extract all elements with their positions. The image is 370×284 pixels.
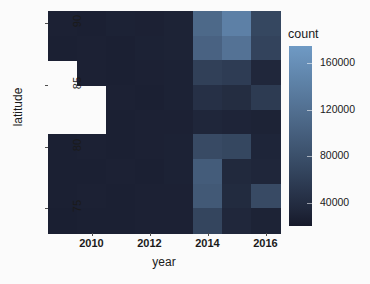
y-tick-mark <box>45 85 48 86</box>
x-tick-mark <box>92 233 93 236</box>
heatmap-cell <box>106 60 136 85</box>
heatmap-cell <box>106 85 136 110</box>
heatmap-figure: 90858075 2010201220142016 year latitude … <box>0 0 370 284</box>
x-tick-label: 2012 <box>127 237 173 249</box>
heatmap-cell <box>77 36 107 61</box>
y-tick-label: 85 <box>43 77 83 89</box>
heatmap-cell <box>222 159 252 184</box>
y-tick-mark <box>45 147 48 148</box>
legend-tick-mark <box>307 110 312 111</box>
heatmap-cell <box>135 208 165 233</box>
heatmap-cell <box>48 36 78 61</box>
heatmap-cell <box>164 208 194 233</box>
heatmap-cell <box>193 11 223 36</box>
heatmap-cell <box>193 184 223 209</box>
heatmap-cell <box>193 85 223 110</box>
heatmap-cell <box>164 184 194 209</box>
x-axis-label: year <box>48 255 280 269</box>
x-tick-mark <box>266 233 267 236</box>
x-tick-label: 2016 <box>243 237 289 249</box>
heatmap-cell <box>106 110 136 135</box>
heatmap-cell <box>135 134 165 159</box>
heatmap-cell <box>222 36 252 61</box>
x-tick-label: 2010 <box>69 237 115 249</box>
heatmap-cell <box>106 208 136 233</box>
legend-tick-mark <box>307 203 312 204</box>
y-tick-label: 90 <box>43 15 83 27</box>
heatmap-cell <box>251 60 281 85</box>
heatmap-cell <box>222 134 252 159</box>
legend-tick-label: 160000 <box>320 56 355 68</box>
legend-tick-label: 120000 <box>320 103 355 115</box>
heatmap-cell <box>164 36 194 61</box>
heatmap-cell <box>222 208 252 233</box>
y-tick-mark <box>45 208 48 209</box>
heatmap-cell <box>251 11 281 36</box>
x-tick-mark <box>208 233 209 236</box>
heatmap-cell <box>251 110 281 135</box>
heatmap-cell <box>106 11 136 36</box>
heatmap-cell <box>193 36 223 61</box>
heatmap-cell <box>135 11 165 36</box>
heatmap-cell <box>251 184 281 209</box>
legend-tick-label: 80000 <box>320 149 349 161</box>
y-axis-label: latitude <box>11 67 25 147</box>
heatmap-cell <box>193 110 223 135</box>
legend-tick-mark <box>307 63 312 64</box>
heatmap-cell <box>222 184 252 209</box>
heatmap-cell <box>106 36 136 61</box>
heatmap-cell <box>193 134 223 159</box>
legend-title: count <box>288 27 319 41</box>
heatmap-cell <box>164 134 194 159</box>
heatmap-cell <box>251 134 281 159</box>
y-tick-mark <box>45 23 48 24</box>
legend-tick-mark <box>307 156 312 157</box>
heatmap-cell <box>222 60 252 85</box>
heatmap-cell <box>135 36 165 61</box>
heatmap-cell <box>106 184 136 209</box>
heatmap-cell <box>193 159 223 184</box>
heatmap-cell <box>106 134 136 159</box>
heatmap-cell <box>164 60 194 85</box>
x-tick-label: 2014 <box>185 237 231 249</box>
y-tick-label: 80 <box>43 139 83 151</box>
heatmap-cell <box>251 159 281 184</box>
heatmap-cell <box>193 208 223 233</box>
heatmap-cell <box>77 159 107 184</box>
x-tick-mark <box>150 233 151 236</box>
heatmap-cell <box>193 60 223 85</box>
heatmap-cell <box>222 110 252 135</box>
heatmap-cell <box>106 159 136 184</box>
heatmap-cell <box>164 85 194 110</box>
heatmap-cell <box>135 184 165 209</box>
heatmap-cell <box>222 11 252 36</box>
heatmap-cell <box>135 85 165 110</box>
heatmap-cell <box>135 60 165 85</box>
heatmap-cell <box>164 110 194 135</box>
heatmap-cell <box>251 36 281 61</box>
y-tick-label: 75 <box>43 200 83 212</box>
legend-colorbar <box>289 46 312 226</box>
heatmap-cell <box>135 159 165 184</box>
heatmap-cell <box>164 159 194 184</box>
heatmap-cell <box>48 159 78 184</box>
heatmap-cell <box>135 110 165 135</box>
heatmap-cell <box>251 208 281 233</box>
heatmap-cell <box>222 85 252 110</box>
heatmap-cell <box>164 11 194 36</box>
legend-tick-label: 40000 <box>320 196 349 208</box>
heatmap-cell <box>251 85 281 110</box>
